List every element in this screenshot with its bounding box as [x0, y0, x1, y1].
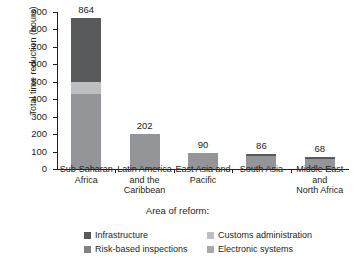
legend-item-label: Infrastructure: [95, 230, 148, 240]
x-axis-category-label: Sub-SaharanAfrica: [57, 164, 115, 185]
bar-segment: [71, 18, 101, 81]
x-axis-category-label-line: Middle East: [291, 164, 349, 175]
x-axis-category-label-line: Caribbean: [115, 185, 173, 196]
legend-title: Area of reform:: [0, 205, 355, 216]
y-axis-tick-label: 400: [7, 94, 47, 104]
x-axis-category-label-line: Africa: [57, 175, 115, 186]
x-axis-category-label-line: East Asia and: [174, 164, 232, 175]
y-axis-line: [57, 12, 58, 170]
x-axis-category-label-line: Sub-Saharan: [57, 164, 115, 175]
bar-segment: [71, 82, 101, 94]
legend-item-label: Customs administration: [218, 230, 312, 240]
bar-value-label: 90: [198, 140, 209, 150]
y-axis-tick-label: 0: [7, 164, 47, 174]
legend-item[interactable]: Customs administration: [207, 230, 334, 240]
chart-container: Total time reduction (hours) 01002003004…: [0, 0, 355, 264]
legend-item[interactable]: Risk-based inspections: [84, 244, 207, 254]
y-axis-tick: [53, 99, 58, 100]
y-axis-tick: [53, 134, 58, 135]
x-axis-category-label-line: and: [291, 175, 349, 186]
y-axis-tick: [53, 12, 58, 13]
y-axis-tick: [53, 117, 58, 118]
bar-value-label: 864: [78, 5, 94, 15]
x-axis-category-label-line: North Africa: [291, 185, 349, 196]
y-axis-tick-label: 900: [7, 7, 47, 17]
bar-value-label: 202: [137, 121, 153, 131]
x-axis-category-label: South Asia: [232, 164, 290, 175]
legend-item[interactable]: Electronic systems: [207, 244, 334, 254]
x-axis-category-label: East Asia andPacific: [174, 164, 232, 185]
y-axis-tick-label: 500: [7, 77, 47, 87]
y-axis-tick: [53, 82, 58, 83]
legend-swatch-icon: [84, 232, 91, 239]
plot-area: 0100200300400500600700800900 86420290866…: [57, 12, 349, 169]
y-axis-tick-label: 200: [7, 129, 47, 139]
bar-value-label: 68: [315, 144, 326, 154]
bar-segment: [71, 94, 101, 169]
legend-swatch-icon: [84, 246, 91, 253]
y-axis-tick: [53, 152, 58, 153]
y-axis-tick-label: 800: [7, 24, 47, 34]
y-axis-title: Total time reduction (hours): [28, 0, 38, 146]
y-axis-tick: [53, 47, 58, 48]
x-axis-category-label-line: and the: [115, 175, 173, 186]
legend-item[interactable]: Infrastructure: [84, 230, 207, 240]
legend-item-label: Risk-based inspections: [95, 244, 188, 254]
x-axis-category-label-line: Pacific: [174, 175, 232, 186]
x-axis-category-label: Middle EastandNorth Africa: [291, 164, 349, 196]
x-axis-category-label-line: South Asia: [232, 164, 290, 175]
legend-swatch-icon: [207, 246, 214, 253]
x-axis-category-label: Latin Americaand theCaribbean: [115, 164, 173, 196]
bar-value-label: 86: [256, 141, 267, 151]
y-axis-tick: [53, 29, 58, 30]
bar[interactable]: 864: [71, 18, 101, 169]
y-axis-tick-label: 700: [7, 42, 47, 52]
x-axis-category-label-line: Latin America: [115, 164, 173, 175]
y-axis-tick-label: 100: [7, 147, 47, 157]
legend: InfrastructureCustoms administrationRisk…: [84, 228, 334, 256]
y-axis-tick-label: 600: [7, 59, 47, 69]
y-axis-tick-label: 300: [7, 112, 47, 122]
legend-swatch-icon: [207, 232, 214, 239]
y-axis-tick: [53, 64, 58, 65]
legend-item-label: Electronic systems: [218, 244, 293, 254]
